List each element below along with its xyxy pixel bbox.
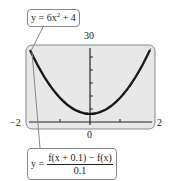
equation-label-difference-quotient: y = f(x + 0.1) − f(x) 0.1 <box>27 148 117 180</box>
fraction: f(x + 0.1) − f(x) 0.1 <box>47 153 113 176</box>
origin-label: 0 <box>87 129 92 140</box>
y-max-label: 30 <box>84 30 94 41</box>
numerator: f(x + 0.1) − f(x) <box>47 153 113 165</box>
equation-label-parabola: y = 6x2 + 4 <box>27 9 80 27</box>
x-min-label: −2 <box>10 117 21 128</box>
x-max-label: 2 <box>157 117 162 128</box>
equation-suffix: + 4 <box>60 12 76 23</box>
equation-prefix: y = <box>31 159 44 169</box>
equation-text: y = 6x <box>31 12 57 23</box>
denominator: 0.1 <box>74 165 87 176</box>
